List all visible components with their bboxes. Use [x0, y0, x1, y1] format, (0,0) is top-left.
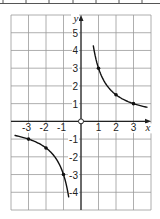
data-point — [114, 93, 118, 97]
x-tick-label: 1 — [96, 122, 102, 133]
y-tick-label: 4 — [72, 45, 78, 56]
x-tick-label: -2 — [40, 122, 49, 133]
tick-labels: -3-2-112354321-1-2-3-4xy — [22, 12, 153, 198]
data-point — [27, 137, 31, 141]
top-table-edge — [0, 0, 160, 4]
x-tick-label: -3 — [22, 122, 31, 133]
curve-negative — [15, 135, 69, 197]
data-point — [97, 66, 101, 70]
y-tick-label: -4 — [69, 187, 78, 198]
data-point — [62, 173, 66, 177]
x-tick-label: 3 — [131, 122, 137, 133]
y-tick-label: 2 — [72, 81, 78, 92]
y-axis-label: y — [73, 12, 79, 24]
origin-marker — [79, 119, 84, 124]
axes — [11, 15, 151, 210]
y-tick-label: -3 — [69, 170, 78, 181]
y-tick-label: 5 — [72, 28, 78, 39]
curve-positive — [93, 45, 147, 107]
y-axis-arrow-icon — [79, 15, 84, 21]
x-axis-label: x — [145, 121, 151, 133]
data-point — [44, 146, 48, 150]
y-tick-label: -2 — [69, 152, 78, 163]
graph: -3-2-112354321-1-2-3-4xy — [0, 0, 160, 219]
x-tick-label: 2 — [113, 122, 119, 133]
x-tick-label: -1 — [57, 122, 66, 133]
data-point — [132, 102, 136, 106]
y-tick-label: -1 — [69, 134, 78, 145]
y-tick-label: 3 — [72, 63, 78, 74]
y-tick-label: 1 — [72, 99, 78, 110]
